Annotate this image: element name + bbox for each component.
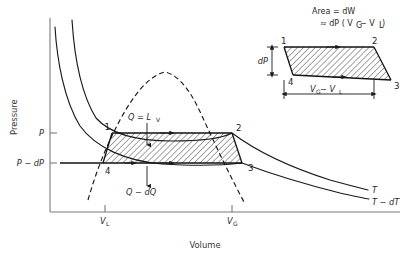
isotherm-label-T: T xyxy=(372,185,378,195)
cycle-corner-3: 3 xyxy=(248,163,253,173)
y-tick-label-P: P xyxy=(39,128,44,138)
cycle-hatched-area xyxy=(103,133,242,163)
isotherm-labels-group: T T − dT xyxy=(372,185,400,207)
x-tick-label-VG: V G xyxy=(227,216,238,227)
inset-caption-line2-a: ≈ dP ( V xyxy=(320,19,353,28)
inset-caption-line2-b: − V xyxy=(360,19,375,28)
isotherm-label-T-dT: T − dT xyxy=(372,197,400,207)
inset-dp-label: dP xyxy=(258,56,268,66)
heat-in-label: Q = L V xyxy=(128,112,161,123)
inset-caption-line1: Area = dW xyxy=(312,7,355,16)
inset-corner-1: 1 xyxy=(281,36,286,46)
inset-caption-line2-c: ) xyxy=(382,19,385,28)
axis-labels-group: Pressure Volume P P − dP V L V G xyxy=(9,99,238,250)
x-axis-title: Volume xyxy=(189,240,220,250)
cycle-corner-1: 1 xyxy=(105,122,110,132)
y-tick-label-P-dP: P − dP xyxy=(17,158,44,168)
inset-corner-3: 3 xyxy=(394,81,399,91)
cycle-corner-2: 2 xyxy=(236,123,241,133)
inset-width-label-b: − V xyxy=(320,84,336,94)
heat-in-label-main: Q = L xyxy=(128,112,152,122)
cycle-region-group: 1 2 3 4 xyxy=(60,122,253,176)
cycle-corner-4: 4 xyxy=(105,166,110,176)
heat-in-label-sub: V xyxy=(156,116,161,123)
x-tick-label-VG-sub: G xyxy=(233,220,238,227)
x-tick-label-VL-sub: L xyxy=(106,220,110,227)
figure-root: Pressure Volume P P − dP V L V G xyxy=(0,0,411,265)
inset-corner-4: 4 xyxy=(288,77,293,87)
heat-out-label: Q − dQ xyxy=(126,187,157,197)
inset-width-label: V G − V L xyxy=(310,84,343,95)
inset-caption-line2: ≈ dP ( V G − V L ) xyxy=(320,19,385,30)
inset-corner-2: 2 xyxy=(372,36,377,46)
inset-group: Area = dW ≈ dP ( V G − V L ) 1 2 3 4 dP xyxy=(258,7,400,99)
y-axis-title: Pressure xyxy=(9,99,19,135)
pv-diagram-canvas: Pressure Volume P P − dP V L V G xyxy=(0,0,411,265)
x-tick-label-VL: V L xyxy=(100,216,110,227)
